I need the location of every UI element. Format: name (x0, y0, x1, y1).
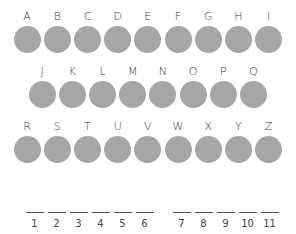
letter-circle[interactable] (180, 81, 207, 108)
answer-slot-6[interactable]: 6 (134, 206, 155, 230)
letter-circle[interactable] (14, 136, 41, 163)
blank-line (261, 212, 279, 213)
letter-circle[interactable] (255, 136, 282, 163)
letter-circle[interactable] (134, 136, 161, 163)
letter-label: B (54, 11, 61, 23)
letter-circle[interactable] (119, 81, 146, 108)
letter-circle[interactable] (104, 136, 131, 163)
slot-number: 6 (141, 218, 147, 230)
letter-label: G (204, 11, 213, 23)
slot-number: 4 (97, 218, 103, 230)
letter-label: N (159, 66, 167, 78)
answer-slot-3[interactable]: 3 (68, 206, 89, 230)
letter-tile-p[interactable]: P (208, 66, 238, 108)
letter-tile-w[interactable]: W (163, 121, 193, 163)
letter-tile-r[interactable]: R (12, 121, 42, 163)
letter-label: R (23, 121, 31, 133)
letter-tile-q[interactable]: Q (238, 66, 268, 108)
letter-circle[interactable] (165, 136, 192, 163)
answer-word-2: 7891011 (171, 206, 281, 230)
letter-tile-h[interactable]: H (223, 11, 253, 53)
answer-slot-9[interactable]: 9 (215, 206, 236, 230)
slot-number: 1 (31, 218, 37, 230)
letter-label: T (84, 121, 91, 133)
letter-circle[interactable] (225, 136, 252, 163)
blank-line (173, 212, 191, 213)
letter-label: K (69, 66, 76, 78)
letter-tile-m[interactable]: M (118, 66, 148, 108)
letter-label: J (40, 66, 43, 78)
letter-label: I (267, 11, 270, 23)
blank-line (136, 212, 154, 213)
letter-label: L (99, 66, 105, 78)
slot-number: 5 (119, 218, 125, 230)
letter-row-1: ABCDEFGHI (12, 11, 284, 53)
letter-tile-d[interactable]: D (103, 11, 133, 53)
answer-slot-2[interactable]: 2 (46, 206, 67, 230)
letter-circle[interactable] (225, 26, 252, 53)
blank-line (195, 212, 213, 213)
blank-line (239, 212, 257, 213)
letter-tile-l[interactable]: L (87, 66, 117, 108)
letter-tile-b[interactable]: B (42, 11, 72, 53)
answer-slot-11[interactable]: 11 (259, 206, 280, 230)
answer-slot-10[interactable]: 10 (237, 206, 258, 230)
letter-tile-u[interactable]: U (103, 121, 133, 163)
slot-number: 7 (178, 218, 184, 230)
letter-circle[interactable] (210, 81, 237, 108)
letter-tile-j[interactable]: J (27, 66, 57, 108)
letter-circle[interactable] (149, 81, 176, 108)
letter-tile-o[interactable]: O (178, 66, 208, 108)
letter-tile-f[interactable]: F (163, 11, 193, 53)
letter-tile-t[interactable]: T (72, 121, 102, 163)
letter-label: Z (265, 121, 273, 133)
letter-tile-n[interactable]: N (148, 66, 178, 108)
slot-number: 2 (53, 218, 59, 230)
letter-tile-z[interactable]: Z (254, 121, 284, 163)
letter-tile-k[interactable]: K (57, 66, 87, 108)
letter-label: H (234, 11, 242, 23)
answer-slot-1[interactable]: 1 (24, 206, 45, 230)
letter-circle[interactable] (165, 26, 192, 53)
letter-circle[interactable] (74, 136, 101, 163)
letter-circle[interactable] (255, 26, 282, 53)
letter-circle[interactable] (44, 26, 71, 53)
letter-label: S (54, 121, 61, 133)
letter-label: M (128, 66, 138, 78)
letter-tile-e[interactable]: E (133, 11, 163, 53)
letter-circle[interactable] (44, 136, 71, 163)
letter-circle[interactable] (29, 81, 56, 108)
letter-tile-g[interactable]: G (193, 11, 223, 53)
slot-number: 11 (263, 218, 276, 230)
blank-line (70, 212, 88, 213)
letter-row-2: JKLMNOPQ (27, 66, 269, 108)
letter-tile-a[interactable]: A (12, 11, 42, 53)
blank-line (92, 212, 110, 213)
letter-label: E (144, 11, 151, 23)
letter-circle[interactable] (74, 26, 101, 53)
answer-slot-5[interactable]: 5 (112, 206, 133, 230)
letter-circle[interactable] (14, 26, 41, 53)
letter-tile-v[interactable]: V (133, 121, 163, 163)
letter-circle[interactable] (59, 81, 86, 108)
letter-circle[interactable] (134, 26, 161, 53)
letter-label: W (173, 121, 184, 133)
answer-slot-7[interactable]: 7 (171, 206, 192, 230)
answer-slot-4[interactable]: 4 (90, 206, 111, 230)
letter-tile-c[interactable]: C (72, 11, 102, 53)
letter-circle[interactable] (104, 26, 131, 53)
letter-circle[interactable] (89, 81, 116, 108)
letter-tile-s[interactable]: S (42, 121, 72, 163)
letter-tile-y[interactable]: Y (223, 121, 253, 163)
answer-slot-8[interactable]: 8 (193, 206, 214, 230)
letter-tile-i[interactable]: I (254, 11, 284, 53)
letter-tile-x[interactable]: X (193, 121, 223, 163)
letter-row-3: RSTUVWXYZ (12, 121, 284, 163)
letter-label: O (189, 66, 198, 78)
letter-circle[interactable] (240, 81, 267, 108)
letter-label: U (114, 121, 122, 133)
blank-line (26, 212, 44, 213)
letter-label: X (204, 121, 212, 133)
letter-circle[interactable] (195, 26, 222, 53)
letter-circle[interactable] (195, 136, 222, 163)
